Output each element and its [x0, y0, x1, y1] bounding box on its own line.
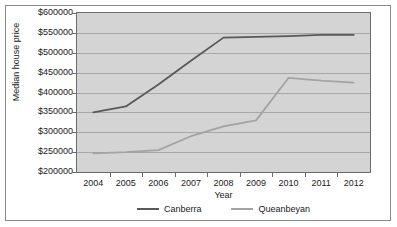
x-axis-tick-label: 2007	[181, 178, 201, 188]
x-axis-tick-label: 2009	[246, 178, 266, 188]
x-axis-tick-label: 2012	[344, 178, 364, 188]
y-axis-tick-mark	[72, 33, 76, 34]
y-axis-tick-mark	[72, 152, 76, 153]
x-axis-tick-mark	[337, 173, 338, 177]
y-axis-tick-label: $450000	[20, 67, 73, 77]
y-axis-tick-label: $350000	[20, 106, 73, 116]
legend-swatch-canberra	[137, 208, 159, 210]
legend-swatch-queanbeyan	[231, 208, 253, 210]
y-axis-tick-mark	[72, 172, 76, 173]
legend-item-canberra[interactable]: Canberra	[137, 204, 202, 214]
y-axis-tick-mark	[72, 93, 76, 94]
chart-legend: CanberraQueanbeyan	[76, 204, 371, 214]
x-axis-tick-mark	[272, 173, 273, 177]
y-axis-tick-mark	[72, 112, 76, 113]
plot-area	[76, 12, 371, 173]
y-axis-tick-label: $400000	[20, 87, 73, 97]
x-axis-tick-mark	[175, 173, 176, 177]
x-axis-tick-label: 2006	[148, 178, 168, 188]
y-axis-tick-label: $200000	[20, 166, 73, 176]
y-axis-tick-mark	[72, 73, 76, 74]
x-axis-tick-mark	[142, 173, 143, 177]
y-axis-tick-label: $300000	[20, 126, 73, 136]
y-axis-tick-labels: $600000$550000$500000$450000$400000$3500…	[20, 12, 73, 173]
x-axis-title: Year	[76, 190, 371, 200]
legend-label: Queanbeyan	[258, 204, 310, 214]
y-axis-tick-label: $500000	[20, 47, 73, 57]
y-axis-tick-label: $250000	[20, 146, 73, 156]
x-axis-tick-label: 2008	[213, 178, 233, 188]
y-axis-tick-label: $550000	[20, 27, 73, 37]
x-axis-tick-label: 2010	[279, 178, 299, 188]
y-axis-tick-mark	[72, 132, 76, 133]
x-axis-tick-mark	[240, 173, 241, 177]
legend-item-queanbeyan[interactable]: Queanbeyan	[231, 204, 310, 214]
x-axis-tick-label: 2005	[116, 178, 136, 188]
series-lines	[77, 13, 370, 172]
legend-label: Canberra	[164, 204, 202, 214]
series-line-queanbeyan	[93, 78, 353, 154]
x-axis-tick-mark	[110, 173, 111, 177]
series-line-canberra	[93, 35, 353, 113]
x-axis-tick-mark	[305, 173, 306, 177]
x-axis-tick-mark	[207, 173, 208, 177]
y-axis-tick-mark	[72, 53, 76, 54]
chart-figure: Median house price $600000$550000$500000…	[0, 0, 397, 227]
y-axis-tick-mark	[72, 13, 76, 14]
x-axis-tick-label: 2004	[83, 178, 103, 188]
y-axis-tick-label: $600000	[20, 7, 73, 17]
x-axis-tick-label: 2011	[311, 178, 330, 188]
